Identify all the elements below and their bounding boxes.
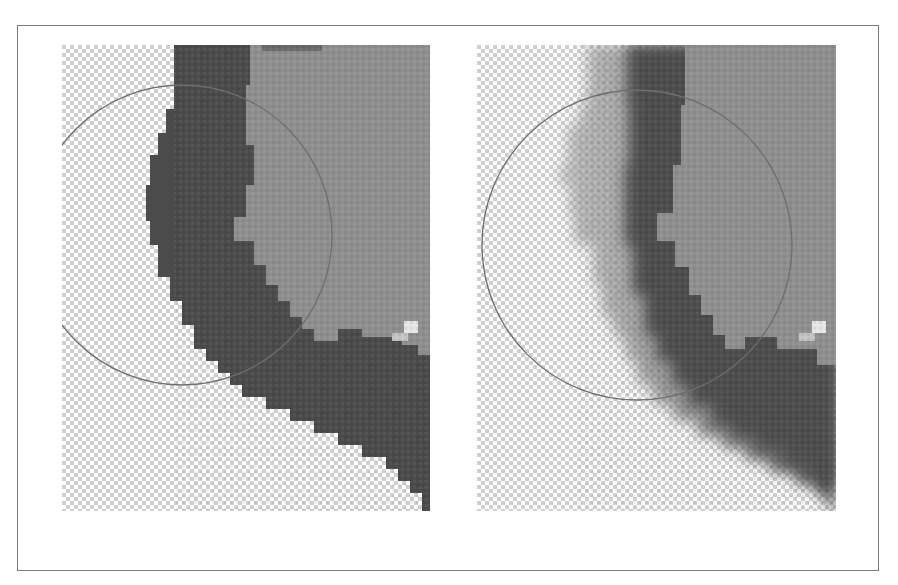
panel-hard-edge [62, 45, 430, 511]
figure-caption [0, 578, 898, 585]
hard-edge-image [62, 45, 430, 511]
panel-feathered-edge [477, 45, 836, 511]
feathered-edge-image [477, 45, 836, 511]
